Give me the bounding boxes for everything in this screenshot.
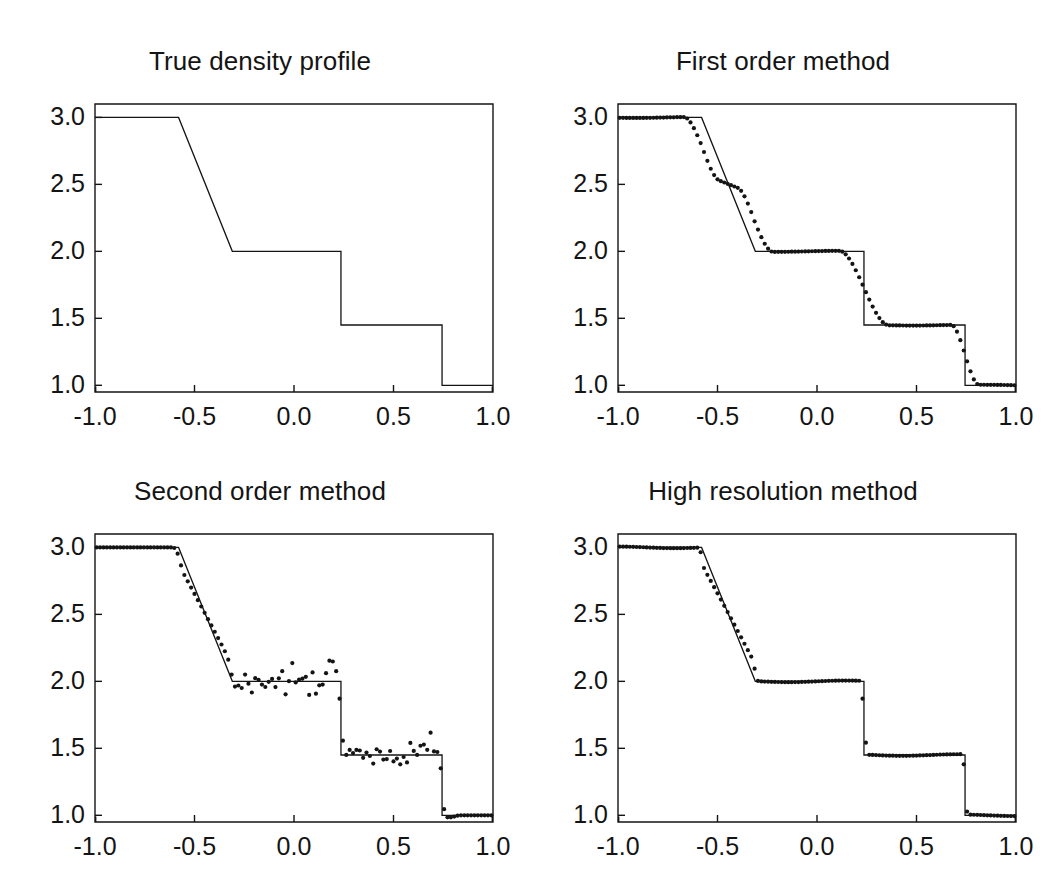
data-point: [489, 813, 493, 817]
data-point: [206, 617, 210, 621]
plot-frame: [95, 534, 493, 822]
x-axis-tick-label: 0.5: [354, 834, 434, 859]
data-point: [371, 761, 375, 765]
data-point: [246, 682, 250, 686]
data-point: [364, 750, 368, 754]
data-point: [736, 629, 740, 633]
x-axis-tick-label: 1.0: [453, 404, 533, 429]
y-axis-tick-label: 2.0: [556, 238, 608, 263]
data-point: [729, 616, 733, 620]
data-point: [378, 749, 382, 753]
data-point: [294, 680, 298, 684]
data-point: [695, 546, 699, 550]
data-point: [256, 678, 260, 682]
data-point: [756, 228, 760, 232]
data-point: [331, 659, 335, 663]
data-point: [736, 186, 740, 190]
y-axis-tick-label: 1.5: [33, 735, 85, 760]
data-point: [216, 636, 220, 640]
data-point: [314, 692, 318, 696]
data-point: [763, 242, 767, 246]
data-point: [857, 679, 861, 683]
x-axis-tick-label: 1.0: [976, 834, 1043, 859]
data-point: [260, 682, 264, 686]
data-point: [702, 566, 706, 570]
data-point: [310, 670, 314, 674]
data-point: [871, 304, 875, 308]
panel-title: Second order method: [0, 476, 520, 507]
data-point: [213, 630, 217, 634]
data-point: [955, 330, 959, 334]
y-axis-tick-label: 1.0: [556, 372, 608, 397]
y-axis-tick-label: 3.0: [556, 534, 608, 559]
x-axis-tick-label: 0.0: [777, 834, 857, 859]
data-point: [705, 573, 709, 577]
plot-svg: [618, 104, 1016, 392]
data-point: [351, 751, 355, 755]
x-axis-tick-label: -0.5: [678, 404, 758, 429]
data-point: [952, 324, 956, 328]
x-axis-tick-label: -0.5: [155, 404, 235, 429]
data-point: [766, 247, 770, 251]
data-point: [699, 141, 703, 145]
data-point: [739, 189, 743, 193]
data-point: [263, 685, 267, 689]
data-point: [702, 150, 706, 154]
data-point: [223, 649, 227, 653]
plot-frame: [618, 104, 1016, 392]
data-point: [759, 235, 763, 239]
data-point: [192, 592, 196, 596]
data-point: [398, 762, 402, 766]
data-point: [243, 672, 247, 676]
y-axis-tick-label: 1.5: [556, 305, 608, 330]
data-point: [726, 610, 730, 614]
data-point: [199, 604, 203, 608]
data-point: [972, 377, 976, 381]
data-point: [240, 686, 244, 690]
data-point: [408, 741, 412, 745]
x-axis-tick-label: 0.5: [354, 404, 434, 429]
y-axis-tick-label: 3.0: [33, 534, 85, 559]
data-point: [753, 219, 757, 223]
data-point: [442, 807, 446, 811]
figure-canvas: True density profile 1.01.52.02.53.0-1.0…: [0, 0, 1043, 884]
data-point: [699, 550, 703, 554]
data-point: [962, 348, 966, 352]
data-point: [850, 262, 854, 266]
panel-title: High resolution method: [523, 476, 1043, 507]
plot-svg: [95, 534, 493, 822]
data-point: [749, 654, 753, 658]
data-point: [695, 133, 699, 137]
data-point: [867, 298, 871, 302]
data-point: [250, 690, 254, 694]
data-point: [348, 748, 352, 752]
data-point: [746, 201, 750, 205]
y-axis-tick-label: 1.0: [33, 372, 85, 397]
data-point: [368, 754, 372, 758]
data-point: [958, 338, 962, 342]
data-point: [881, 320, 885, 324]
data-point: [337, 697, 341, 701]
data-point: [1012, 814, 1016, 818]
x-axis-tick-label: -0.5: [678, 834, 758, 859]
plot-area: 1.01.52.02.53.0-1.0-0.50.00.51.0: [618, 534, 1016, 822]
data-point: [176, 552, 180, 556]
plot-frame: [618, 534, 1016, 822]
data-point: [709, 579, 713, 583]
data-point: [712, 585, 716, 589]
data-point: [324, 671, 328, 675]
data-point: [968, 369, 972, 373]
data-point: [270, 677, 274, 681]
data-point: [749, 210, 753, 214]
data-point: [688, 120, 692, 124]
data-point: [860, 697, 864, 701]
panel-title: First order method: [523, 46, 1043, 77]
data-point: [230, 672, 234, 676]
data-point: [877, 316, 881, 320]
x-axis-tick-label: 0.0: [777, 404, 857, 429]
data-point: [287, 679, 291, 683]
y-axis-tick-label: 2.5: [33, 601, 85, 626]
data-point: [965, 810, 969, 814]
exact-solution-line: [95, 117, 493, 385]
y-axis-tick-label: 1.0: [556, 802, 608, 827]
